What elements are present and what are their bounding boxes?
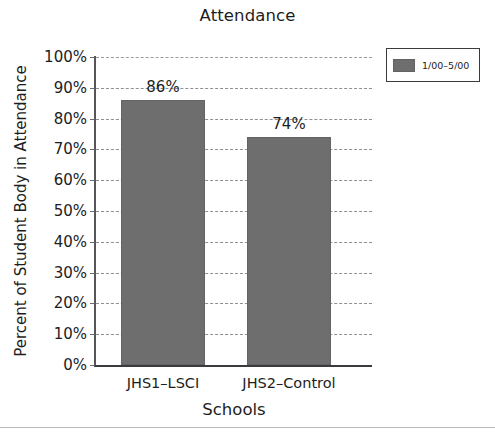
y-tick-40: [90, 242, 95, 243]
x-tick-label-jhs2-control: JHS2–Control: [242, 375, 335, 391]
x-axis-line: [94, 365, 372, 367]
x-axis-title: Schools: [96, 400, 372, 419]
y-tick-label-80: 80%: [54, 110, 87, 128]
y-tick-20: [90, 303, 95, 304]
y-axis-title-label: Percent of Student Body in Attendance: [12, 65, 30, 357]
attendance-bar-chart-figure: Attendance Percent of Student Body in At…: [0, 0, 495, 436]
y-tick-label-20: 20%: [54, 294, 87, 312]
gridline-100: [96, 57, 372, 58]
x-tick-label-jhs1-lsci: JHS1–LSCI: [127, 375, 200, 391]
y-tick-10: [90, 334, 95, 335]
gridline-90: [96, 88, 372, 89]
y-tick-50: [90, 211, 95, 212]
y-tick-label-90: 90%: [54, 79, 87, 97]
y-tick-label-30: 30%: [54, 264, 87, 282]
y-tick-label-10: 10%: [54, 325, 87, 343]
y-tick-30: [90, 273, 95, 274]
bar-jhs1-lsci[interactable]: [121, 100, 205, 365]
bar-value-jhs1-lsci: 86%: [146, 78, 179, 96]
bar-jhs2-control[interactable]: [247, 137, 331, 365]
y-tick-80: [90, 119, 95, 120]
y-tick-90: [90, 88, 95, 89]
chart-title: Attendance: [0, 6, 495, 25]
y-tick-label-50: 50%: [54, 202, 87, 220]
y-tick-label-40: 40%: [54, 233, 87, 251]
y-tick-60: [90, 180, 95, 181]
y-tick-label-70: 70%: [54, 140, 87, 158]
y-tick-label-100: 100%: [44, 48, 87, 66]
plot-area: 100% 90% 80% 70% 60% 50% 40% 30% 20% 10%…: [96, 57, 372, 365]
y-tick-70: [90, 149, 95, 150]
legend-label: 1/00–5/00: [422, 60, 469, 71]
legend-swatch-icon: [393, 59, 415, 72]
y-tick-label-0: 0%: [63, 356, 87, 374]
y-tick-100: [90, 57, 95, 58]
bar-value-jhs2-control: 74%: [272, 115, 305, 133]
y-tick-label-60: 60%: [54, 171, 87, 189]
chart-legend: 1/00–5/00: [386, 48, 480, 82]
y-axis-title: Percent of Student Body in Attendance: [8, 57, 34, 365]
bottom-divider: [0, 427, 495, 428]
y-tick-0: [90, 365, 95, 366]
